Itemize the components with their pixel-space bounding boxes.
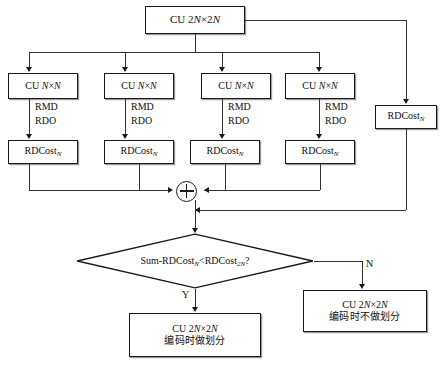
node-rdcost-right-2n: RDCostN bbox=[375, 105, 437, 129]
node-rdcost-right-label: RDCostN bbox=[388, 110, 425, 124]
arrow-to-rdcost-3 bbox=[219, 134, 225, 139]
node-decision-diamond: Sum-RDCostN<RDCost2N? bbox=[76, 233, 314, 289]
edge-rdcost-4-drop bbox=[320, 164, 321, 190]
edge-fanout-bus bbox=[29, 52, 319, 53]
edge-fanout-drop-1 bbox=[29, 52, 30, 68]
node-cu-nxn-3-label: CU N×N bbox=[218, 80, 253, 92]
arrow-to-rdcost-2 bbox=[122, 134, 128, 139]
arrow-sum-from-right bbox=[204, 187, 209, 193]
edge-rmd-rdo-3 bbox=[222, 99, 223, 135]
node-result-no-split-text: CU 2N×2N 编码时不做划分 bbox=[329, 299, 400, 323]
arrow-to-cu-2 bbox=[122, 67, 128, 72]
edge-label-rmd-2: RMD bbox=[131, 101, 154, 112]
arrow-to-rdcost-1 bbox=[26, 134, 32, 139]
edge-fanout-drop-4 bbox=[319, 52, 320, 68]
node-root-cu-2nx2n: CU 2N×2N bbox=[145, 6, 245, 34]
edge-fanout-drop-3 bbox=[222, 52, 223, 68]
arrow-to-rdcost-right bbox=[403, 99, 409, 104]
node-cu-nxn-1-label: CU N×N bbox=[25, 80, 60, 92]
rdcost-right-subscript: N bbox=[420, 115, 425, 123]
node-rdcost-2-label: RDCostN bbox=[121, 145, 158, 159]
arrow-to-cu-4 bbox=[316, 67, 322, 72]
edge-rmd-rdo-4 bbox=[319, 99, 320, 135]
edge-rdcost-1-drop bbox=[29, 164, 30, 190]
node-result-split-text: CU 2N×2N 编码时做划分 bbox=[164, 323, 225, 347]
node-result-no-split: CU 2N×2N 编码时不做划分 bbox=[303, 290, 427, 332]
edge-label-no: N bbox=[366, 258, 373, 269]
edge-label-rmd-1: RMD bbox=[35, 101, 58, 112]
node-cu-nxn-4-label: CU N×N bbox=[302, 80, 337, 92]
edge-rdcost-right-down bbox=[406, 129, 407, 210]
edge-sum-to-decision bbox=[195, 200, 196, 230]
edge-root-to-right-branch bbox=[245, 20, 406, 21]
edge-rmd-rdo-1 bbox=[29, 99, 30, 135]
result-no-split-line2: 编码时不做划分 bbox=[329, 311, 400, 323]
edge-left-collector bbox=[29, 190, 170, 191]
arrow-sum-from-left bbox=[168, 187, 173, 193]
node-rdcost-3-label: RDCostN bbox=[207, 145, 244, 159]
edge-label-rdo-3: RDO bbox=[228, 115, 249, 126]
node-rdcost-2: RDCostN bbox=[104, 140, 174, 164]
rdcost-1-subscript: N bbox=[57, 150, 62, 158]
node-cu-nxn-3: CU N×N bbox=[201, 73, 271, 99]
result-split-line1: CU 2N×2N bbox=[164, 323, 225, 335]
edge-right-collector bbox=[204, 190, 320, 191]
root-italic-n2: N bbox=[213, 13, 220, 25]
result-no-split-line1: CU 2N×2N bbox=[329, 299, 400, 311]
arrow-yes bbox=[192, 307, 198, 312]
flowchart-canvas: CU 2N×2N CU N×N CU N×N CU N×N CU N×N RMD… bbox=[0, 0, 446, 366]
edge-rdcost-2-drop bbox=[139, 164, 140, 190]
arrow-to-rdcost-4 bbox=[316, 134, 322, 139]
node-rdcost-1: RDCostN bbox=[8, 140, 78, 164]
node-rdcost-4-label: RDCostN bbox=[302, 145, 339, 159]
node-root-label: CU 2N×2N bbox=[170, 13, 220, 26]
edge-yes bbox=[195, 289, 196, 309]
edge-right-branch-down bbox=[406, 20, 407, 100]
edge-label-rdo-4: RDO bbox=[325, 115, 346, 126]
node-rdcost-1-label: RDCostN bbox=[25, 145, 62, 159]
edge-rdcost-right-to-decision bbox=[195, 210, 406, 211]
edge-no-vertical bbox=[362, 261, 363, 285]
arrow-no bbox=[359, 284, 365, 289]
edge-fanout-drop-2 bbox=[125, 52, 126, 68]
rdcost-4-subscript: N bbox=[334, 150, 339, 158]
edge-label-rmd-4: RMD bbox=[325, 101, 348, 112]
edge-no-horizontal bbox=[314, 261, 362, 262]
rdcost-2-subscript: N bbox=[153, 150, 158, 158]
rdcost-3-subscript: N bbox=[239, 150, 244, 158]
node-cu-nxn-4: CU N×N bbox=[285, 73, 355, 99]
node-result-split: CU 2N×2N 编码时做划分 bbox=[129, 313, 261, 357]
node-cu-nxn-1: CU N×N bbox=[8, 73, 78, 99]
arrow-to-cu-1 bbox=[26, 67, 32, 72]
edge-label-rdo-2: RDO bbox=[131, 115, 152, 126]
root-italic-n1: N bbox=[194, 13, 201, 25]
edge-label-rmd-3: RMD bbox=[228, 101, 251, 112]
result-split-line2: 编码时做划分 bbox=[164, 335, 225, 347]
edge-label-rdo-1: RDO bbox=[35, 115, 56, 126]
edge-rdcost-3-drop bbox=[225, 164, 226, 190]
edge-label-yes: Y bbox=[182, 289, 189, 300]
node-rdcost-4: RDCostN bbox=[285, 140, 355, 164]
node-cu-nxn-2-label: CU N×N bbox=[121, 80, 156, 92]
node-cu-nxn-2: CU N×N bbox=[104, 73, 174, 99]
arrow-to-cu-3 bbox=[219, 67, 225, 72]
edge-root-stem bbox=[195, 34, 196, 52]
node-rdcost-3: RDCostN bbox=[190, 140, 260, 164]
node-summation bbox=[176, 181, 197, 202]
edge-rmd-rdo-2 bbox=[125, 99, 126, 135]
